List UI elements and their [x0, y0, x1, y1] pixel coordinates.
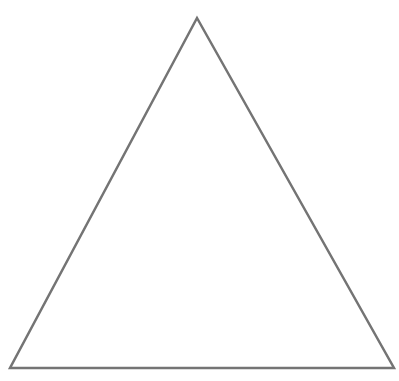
- diagram-canvas: [0, 0, 399, 381]
